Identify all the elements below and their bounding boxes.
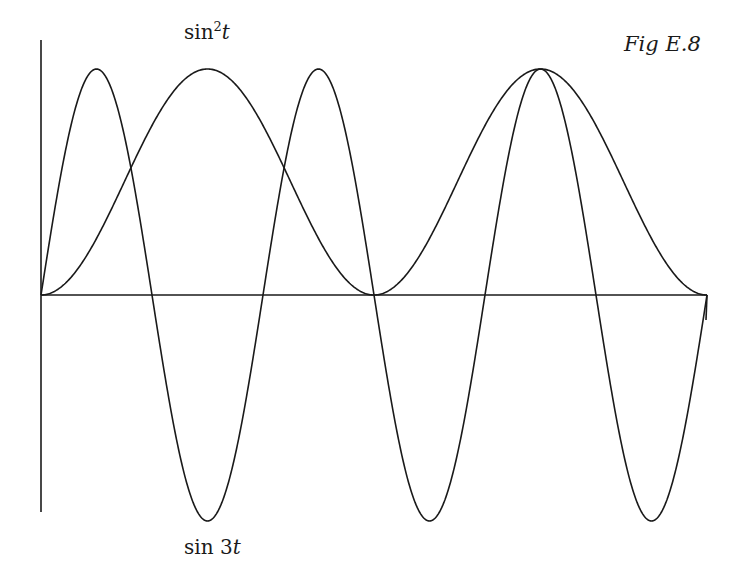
sin2-exponent: 2 (214, 19, 222, 34)
sin-squared-curve (41, 69, 707, 295)
sin2-variable: t (222, 20, 230, 44)
sin-squared-label: sin2t (184, 20, 230, 44)
sin3-variable: t (233, 535, 241, 559)
figure-canvas (0, 0, 737, 574)
sin3-func-text: sin 3 (184, 535, 233, 559)
figure-title: Fig E.8 (624, 32, 701, 56)
sin-3t-label: sin 3t (184, 535, 241, 559)
sin2-func-text: sin (184, 20, 214, 44)
